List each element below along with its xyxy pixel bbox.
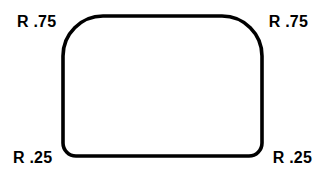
radius-label-bottom-right: R .25 <box>273 150 312 166</box>
radius-label-top-right: R .75 <box>269 14 308 30</box>
shape-outline <box>63 16 262 156</box>
radius-label-bottom-left: R .25 <box>13 150 52 166</box>
radius-label-top-left: R .75 <box>17 14 56 30</box>
drawing-canvas: R .75 R .75 R .25 R .25 <box>0 0 325 179</box>
